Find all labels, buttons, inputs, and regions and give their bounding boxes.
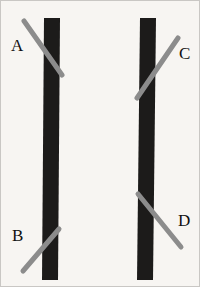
- label-c: C: [179, 44, 190, 63]
- label-d: D: [178, 211, 190, 230]
- right-bar: [137, 18, 156, 280]
- label-a: A: [11, 36, 24, 55]
- figure-background: [1, 1, 200, 287]
- figure-canvas: A B C D: [0, 0, 200, 287]
- poggendorff-figure: A B C D: [1, 1, 200, 287]
- label-b: B: [12, 226, 23, 245]
